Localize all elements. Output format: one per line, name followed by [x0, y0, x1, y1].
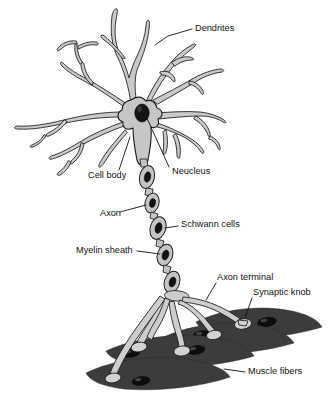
- label-nucleus: Neucleus: [172, 166, 211, 176]
- label-axon: Axon: [100, 208, 121, 218]
- nucleus-highlight: [137, 106, 142, 112]
- label-dendrites: Dendrites: [195, 23, 235, 33]
- label-schwann-cells: Schwann cells: [181, 219, 240, 229]
- neuron-diagram: Dendrites Cell body Neucleus Axon Schwan…: [0, 0, 330, 404]
- label-axon-terminal: Axon terminal: [217, 272, 273, 282]
- label-muscle-fibers: Muscle fibers: [248, 366, 303, 376]
- neuron-illustration: Dendrites Cell body Neucleus Axon Schwan…: [0, 0, 330, 404]
- label-synaptic-knob: Synaptic knob: [253, 287, 311, 297]
- label-cell-body: Cell body: [88, 170, 127, 180]
- synaptic-knob-stem: [238, 320, 248, 326]
- label-myelin-sheath: Myelin sheath: [76, 245, 133, 255]
- dendrite: [163, 130, 168, 154]
